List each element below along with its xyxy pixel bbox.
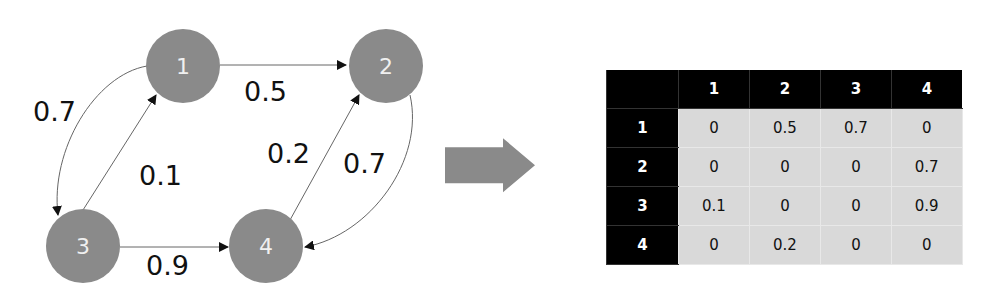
matrix-cell: 0 xyxy=(892,109,963,148)
right-arrow-icon xyxy=(443,138,543,198)
matrix-cell: 0 xyxy=(679,148,750,187)
matrix-row: 3 0.1 0 0 0.9 xyxy=(607,187,963,226)
matrix-cell: 0 xyxy=(892,226,963,265)
edge-weight-3-4: 0.9 xyxy=(146,250,189,281)
matrix-row: 2 0 0 0 0.7 xyxy=(607,148,963,187)
matrix-cell: 0 xyxy=(750,187,821,226)
matrix-col-header: 1 xyxy=(679,70,750,109)
matrix-corner xyxy=(607,70,679,109)
matrix-col-header: 4 xyxy=(892,70,963,109)
matrix-col-header: 2 xyxy=(750,70,821,109)
edge-weight-2-4: 0.7 xyxy=(343,148,386,179)
matrix-cell: 0 xyxy=(821,148,892,187)
edge-weight-1-3: 0.7 xyxy=(33,96,76,127)
matrix-cell: 0 xyxy=(821,187,892,226)
graph-node-4: 4 xyxy=(229,209,303,283)
matrix-row-header: 3 xyxy=(607,187,679,226)
matrix-col-header: 3 xyxy=(821,70,892,109)
matrix-cell: 0.9 xyxy=(892,187,963,226)
matrix-header-row: 1 2 3 4 xyxy=(607,70,963,109)
matrix-cell: 0.7 xyxy=(892,148,963,187)
matrix-row-header: 4 xyxy=(607,226,679,265)
matrix-cell: 0 xyxy=(750,148,821,187)
edge-weight-3-1: 0.1 xyxy=(139,160,182,191)
graph-node-1: 1 xyxy=(146,29,220,103)
edge-3-1 xyxy=(83,95,156,210)
matrix-cell: 0.5 xyxy=(750,109,821,148)
graph-node-3: 3 xyxy=(46,209,120,283)
graph-node-2: 2 xyxy=(349,29,423,103)
matrix-row: 1 0 0.5 0.7 0 xyxy=(607,109,963,148)
matrix-row-header: 1 xyxy=(607,109,679,148)
edge-weight-4-2: 0.2 xyxy=(267,138,310,169)
adjacency-matrix: 1 2 3 4 1 0 0.5 0.7 0 2 0 0 0 0.7 3 0.1 … xyxy=(606,70,963,265)
edge-weight-1-2: 0.5 xyxy=(244,76,287,107)
matrix-row-header: 2 xyxy=(607,148,679,187)
weighted-directed-graph: 1 2 3 4 0.5 0.7 0.1 0.9 0.2 0.7 xyxy=(0,0,440,299)
matrix-cell: 0.2 xyxy=(750,226,821,265)
matrix-cell: 0 xyxy=(679,109,750,148)
edge-1-3 xyxy=(57,66,147,215)
matrix-cell: 0 xyxy=(821,226,892,265)
matrix-cell: 0.7 xyxy=(821,109,892,148)
matrix-row: 4 0 0.2 0 0 xyxy=(607,226,963,265)
matrix-cell: 0 xyxy=(679,226,750,265)
matrix-cell: 0.1 xyxy=(679,187,750,226)
